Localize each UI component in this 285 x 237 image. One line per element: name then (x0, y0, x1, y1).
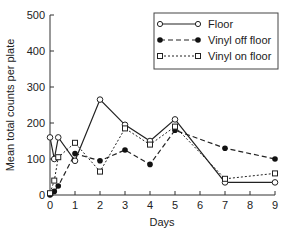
open-square-marker-icon (148, 142, 153, 147)
filled-circle-marker-icon (122, 147, 128, 153)
open-square-marker-icon (48, 191, 53, 196)
x-tick-label: 3 (122, 199, 128, 211)
open-circle-marker-icon (172, 117, 178, 123)
filled-circle-marker-icon (147, 162, 153, 168)
open-square-marker-icon (196, 54, 201, 59)
filled-circle-marker-icon (272, 156, 278, 162)
y-tick-label: 400 (27, 45, 45, 57)
legend-label-vinyl-off-floor: Vinyl off floor (208, 34, 272, 46)
x-tick-label: 5 (172, 199, 178, 211)
x-tick-label: 1 (72, 199, 78, 211)
filled-circle-marker-icon (72, 151, 78, 157)
y-tick-label: 200 (27, 117, 45, 129)
legend: Floor Vinyl off floor Vinyl on floor (154, 13, 278, 69)
open-square-marker-icon (273, 171, 278, 176)
open-circle-marker-icon (97, 97, 103, 103)
open-square-marker-icon (158, 54, 163, 59)
open-square-marker-icon (223, 176, 228, 181)
filled-circle-marker-icon (222, 145, 228, 151)
filled-circle-marker-icon (97, 158, 103, 164)
y-axis: 0100200300400500 (27, 9, 54, 201)
open-square-marker-icon (73, 140, 78, 145)
open-circle-marker-icon (47, 135, 53, 141)
y-tick-label: 100 (27, 153, 45, 165)
x-tick-label: 8 (247, 199, 253, 211)
filled-circle-marker-icon (55, 183, 61, 189)
line-chart: 0100200300400500 0123456789 Mean total c… (0, 0, 285, 237)
open-square-marker-icon (173, 124, 178, 129)
y-tick-label: 0 (39, 189, 45, 201)
x-tick-label: 0 (47, 199, 53, 211)
filled-circle-marker-icon (157, 37, 163, 43)
legend-label-floor: Floor (208, 18, 233, 30)
x-axis-label: Days (149, 216, 175, 228)
open-square-marker-icon (123, 126, 128, 131)
x-tick-label: 2 (97, 199, 103, 211)
series-floor (47, 97, 278, 185)
y-tick-label: 300 (27, 81, 45, 93)
plot-series (47, 97, 278, 198)
x-tick-label: 6 (197, 199, 203, 211)
x-tick-label: 7 (222, 199, 228, 211)
open-circle-marker-icon (72, 158, 78, 164)
legend-label-vinyl-on-floor: Vinyl on floor (208, 50, 272, 62)
series-vinyl-off-floor (47, 127, 278, 197)
open-circle-marker-icon (55, 135, 61, 141)
x-axis: 0123456789 (47, 191, 278, 211)
x-tick-label: 4 (147, 199, 153, 211)
filled-circle-marker-icon (195, 37, 201, 43)
series-vinyl-on-floor (48, 124, 278, 196)
open-circle-marker-icon (157, 21, 162, 26)
open-square-marker-icon (98, 169, 103, 174)
open-circle-marker-icon (195, 21, 200, 26)
y-tick-label: 500 (27, 9, 45, 21)
open-circle-marker-icon (272, 180, 278, 186)
open-square-marker-icon (56, 155, 61, 160)
open-square-marker-icon (52, 178, 57, 183)
y-axis-label: Mean total counts per plate (4, 39, 16, 172)
x-tick-label: 9 (272, 199, 278, 211)
